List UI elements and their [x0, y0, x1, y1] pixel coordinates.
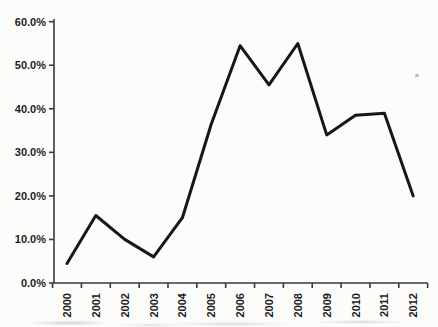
x-axis-tick-label: 2006 — [234, 293, 246, 317]
x-axis-tick-label: 2009 — [321, 293, 333, 317]
x-axis-tick-label: 2004 — [176, 292, 188, 317]
percentage-by-year-line-chart: 0.0%10.0%20.0%30.0%40.0%50.0%60.0%200020… — [0, 0, 438, 327]
x-axis-tick-label: 2007 — [263, 293, 275, 317]
x-axis-tick-label: 2011 — [378, 293, 390, 317]
x-axis-tick-label: 2002 — [119, 293, 131, 317]
data-series-line — [67, 44, 413, 264]
y-axis-tick-label: 0.0% — [21, 277, 46, 289]
y-axis-tick-label: 60.0% — [15, 16, 46, 28]
x-axis-tick-label: 2008 — [292, 293, 304, 317]
x-axis-tick-label: 2001 — [90, 293, 102, 317]
x-axis-tick-label: 2003 — [148, 293, 160, 317]
x-axis-tick-label: 2012 — [407, 293, 419, 317]
x-axis-tick-label: 2005 — [205, 293, 217, 317]
y-axis-tick-label: 50.0% — [15, 59, 46, 71]
y-axis-tick-label: 30.0% — [15, 146, 46, 158]
y-axis-tick-label: 40.0% — [15, 103, 46, 115]
x-axis-tick-label: 2010 — [350, 293, 362, 317]
line-chart-figure: 0.0%10.0%20.0%30.0%40.0%50.0%60.0%200020… — [0, 0, 438, 327]
x-axis-tick-label: 2000 — [61, 293, 73, 317]
y-axis-tick-label: 10.0% — [15, 233, 46, 245]
scan-speck-artifact — [415, 74, 419, 77]
y-axis-tick-label: 20.0% — [15, 190, 46, 202]
